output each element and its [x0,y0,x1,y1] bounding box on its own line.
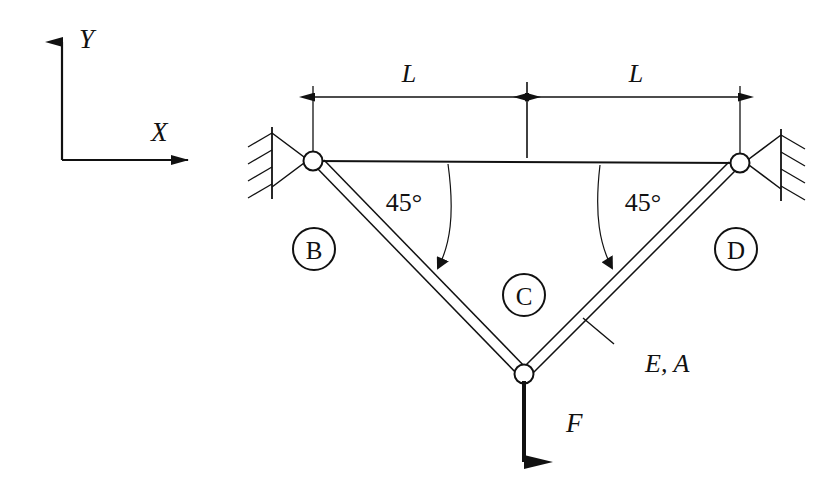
support-right-hatch-3 [781,169,805,183]
support-right [745,129,805,201]
node-label-d: D [727,237,745,264]
dimension-label-right: L [628,59,643,88]
support-left-hatch-1 [248,133,272,147]
material-leader-line [583,318,614,344]
pin-joint-apex [515,365,534,384]
angle-arc-left [438,164,451,268]
pin-joint-d [731,154,750,173]
support-left [248,127,308,199]
support-left-hatch-2 [248,150,272,164]
node-label-c-group: C [503,274,545,316]
angle-arc-left-group: 45° [386,164,451,268]
node-label-b: B [306,237,323,264]
material-callout: E, A [583,318,689,378]
truss-diagram: Y X L L [0,0,837,499]
support-left-hatch-4 [248,184,272,198]
top-chord-member [313,161,740,163]
angle-label-right: 45° [625,188,661,217]
dimension-label-left: L [401,59,416,88]
diagonal-left-edge-outer [324,160,529,371]
dimension-group: L L [313,59,740,158]
pin-joint-b [304,152,323,171]
figure-canvas: Y X L L [0,0,837,499]
node-label-c: C [516,283,533,310]
x-axis-label: X [150,117,169,147]
angle-label-left: 45° [386,188,422,217]
coordinate-axes: Y X [62,24,188,160]
node-label-d-group: D [715,228,757,270]
angle-arc-right-group: 45° [598,165,662,268]
node-label-b-group: B [293,228,335,270]
support-left-hatch-3 [248,167,272,181]
support-right-hatch-4 [781,186,805,200]
applied-force: F [524,381,583,462]
force-label: F [565,408,583,438]
angle-arc-right [598,165,612,268]
support-right-hatch-2 [781,152,805,166]
y-axis-label: Y [79,24,97,54]
material-label: E, A [644,349,689,378]
diagonal-member-left [316,160,529,378]
support-right-hatch-1 [781,135,805,149]
